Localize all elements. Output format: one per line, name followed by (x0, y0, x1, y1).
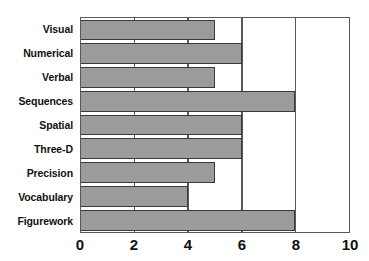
category-label: Visual (0, 17, 77, 41)
bar-series (81, 18, 349, 232)
bar-row (81, 66, 349, 90)
bar (81, 67, 215, 88)
value-tick-label: 8 (292, 235, 300, 255)
bar (81, 43, 242, 64)
category-label: Verbal (0, 65, 77, 89)
value-tick-label: 4 (184, 235, 192, 255)
bar-row (81, 208, 349, 232)
bar-row (81, 113, 349, 137)
category-label: Vocabulary (0, 185, 77, 209)
value-axis-labels: 0246810 (80, 235, 350, 259)
bar-row (81, 161, 349, 185)
bar (81, 186, 188, 207)
value-tick-label: 0 (76, 235, 84, 255)
bar (81, 162, 215, 183)
category-label: Spatial (0, 113, 77, 137)
bar-row (81, 89, 349, 113)
bar-row (81, 184, 349, 208)
value-tick-label: 6 (238, 235, 246, 255)
value-tick-label: 2 (130, 235, 138, 255)
value-tick-label: 10 (342, 235, 359, 255)
bar-chart: VisualNumericalVerbalSequencesSpatialThr… (0, 0, 369, 261)
category-label: Precision (0, 161, 77, 185)
category-label: Three-D (0, 137, 77, 161)
category-label: Figurework (0, 209, 77, 233)
bar (81, 138, 242, 159)
category-axis-labels: VisualNumericalVerbalSequencesSpatialThr… (0, 17, 77, 233)
bar (81, 210, 295, 231)
category-label: Numerical (0, 41, 77, 65)
bar-row (81, 18, 349, 42)
bar (81, 115, 242, 136)
bar (81, 91, 295, 112)
bar-row (81, 42, 349, 66)
bar-row (81, 137, 349, 161)
category-label: Sequences (0, 89, 77, 113)
plot-area (80, 17, 350, 233)
bar (81, 20, 215, 41)
